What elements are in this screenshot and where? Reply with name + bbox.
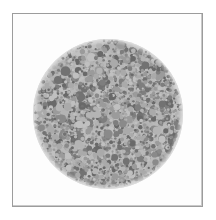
- plate-border: [12, 13, 203, 207]
- plate-alt-text: Grayscale reproduction of a pseudoisochr…: [0, 0, 1, 1]
- figure-root: Grayscale reproduction of a pseudoisochr…: [0, 0, 216, 220]
- ishihara-plate-image: [13, 14, 203, 207]
